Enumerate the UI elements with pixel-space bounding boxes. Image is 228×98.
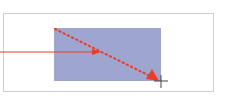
arrow-overlay <box>0 0 228 98</box>
dotted-arrow[interactable] <box>55 29 159 81</box>
solid-arrow[interactable] <box>0 49 101 55</box>
